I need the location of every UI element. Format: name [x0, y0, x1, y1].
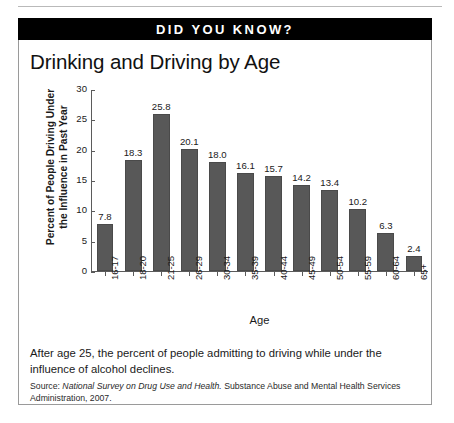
bar-value-label: 20.1: [180, 136, 199, 147]
x-tick-label: 60-64: [390, 256, 401, 280]
x-tick-mark: [302, 272, 303, 276]
x-tick-label: 55-59: [362, 256, 373, 280]
top-rule: [18, 6, 442, 7]
y-tick-label: 25: [76, 113, 87, 124]
x-tick-mark: [217, 272, 218, 276]
x-tick-mark: [245, 272, 246, 276]
bar-group[interactable]: 20.1: [181, 91, 198, 271]
bar-group[interactable]: 15.7: [265, 91, 282, 271]
y-tick-mark: [91, 242, 95, 243]
bar[interactable]: [181, 149, 198, 271]
bar-value-label: 14.2: [292, 172, 311, 183]
chart-title: Drinking and Driving by Age: [30, 50, 280, 74]
bar[interactable]: [209, 162, 226, 271]
y-tick-label: 5: [82, 235, 87, 246]
x-tick-label: 40-44: [278, 256, 289, 280]
x-tick-label: 50-54: [334, 256, 345, 280]
x-tick-mark: [330, 272, 331, 276]
x-tick-label: 18-20: [137, 256, 148, 280]
x-tick-mark: [133, 272, 134, 276]
bar-value-label: 25.8: [152, 101, 171, 112]
y-axis-title-line2: the Influence in Past Year: [58, 105, 69, 228]
y-tick-label: 30: [76, 83, 87, 94]
bar-chart: Percent of People Driving Under the Infl…: [28, 84, 428, 334]
bar-group[interactable]: 2.4: [406, 91, 423, 271]
x-tick-label: 35-39: [249, 256, 260, 280]
source-prefix: Source:: [30, 381, 62, 391]
y-tick-mark: [91, 272, 95, 273]
bar-group[interactable]: 16.1: [237, 91, 254, 271]
x-tick-label: 45-49: [306, 256, 317, 280]
y-tick-mark: [91, 181, 95, 182]
y-axis-title: Percent of People Driving Under the Infl…: [44, 74, 70, 260]
banner-title: DID YOU KNOW?: [156, 23, 294, 36]
x-tick-label: 30-34: [221, 256, 232, 280]
x-tick-mark: [386, 272, 387, 276]
y-tick-label: 20: [76, 144, 87, 155]
source-publication: National Survey on Drug Use and Health.: [62, 381, 221, 391]
bar-value-label: 10.2: [348, 196, 367, 207]
bar-value-label: 2.4: [407, 243, 420, 254]
did-you-know-banner: DID YOU KNOW?: [18, 18, 432, 40]
bar-group[interactable]: 7.8: [97, 91, 114, 271]
caption-text: After age 25, the percent of people admi…: [30, 345, 420, 377]
y-axis-title-line1: Percent of People Driving Under: [45, 89, 56, 245]
bar-group[interactable]: 10.2: [349, 91, 366, 271]
bar-group[interactable]: 18.3: [125, 91, 142, 271]
y-tick-label: 10: [76, 204, 87, 215]
y-tick-mark: [91, 151, 95, 152]
x-tick-mark: [358, 272, 359, 276]
bar-value-label: 6.3: [379, 220, 392, 231]
x-tick-label: 65+: [418, 264, 429, 280]
bar-group[interactable]: 25.8: [153, 91, 170, 271]
x-tick-mark: [414, 272, 415, 276]
bar-value-label: 15.7: [264, 163, 283, 174]
bar-group[interactable]: 14.2: [293, 91, 310, 271]
x-tick-label: 16-17: [109, 256, 120, 280]
x-tick-label: 26-29: [193, 256, 204, 280]
bar-value-label: 16.1: [236, 160, 255, 171]
bar-value-label: 7.8: [98, 211, 111, 222]
bar-group[interactable]: 13.4: [321, 91, 338, 271]
x-axis-title: Age: [91, 314, 428, 326]
bar-group[interactable]: 6.3: [377, 91, 394, 271]
y-tick-label: 15: [76, 174, 87, 185]
x-tick-mark: [105, 272, 106, 276]
y-tick-mark: [91, 90, 95, 91]
x-tick-label: 21-25: [165, 256, 176, 280]
x-tick-mark: [274, 272, 275, 276]
bar-group[interactable]: 18.0: [209, 91, 226, 271]
x-tick-mark: [161, 272, 162, 276]
bar-value-label: 18.0: [208, 149, 227, 160]
bar[interactable]: [153, 114, 170, 271]
y-tick-label: 0: [82, 265, 87, 276]
y-tick-mark: [91, 120, 95, 121]
bar[interactable]: [125, 160, 142, 271]
y-tick-mark: [91, 211, 95, 212]
x-tick-mark: [189, 272, 190, 276]
bar-value-label: 18.3: [124, 147, 143, 158]
plot-area: 051015202530 7.818.325.820.118.016.115.7…: [91, 90, 428, 272]
source-text: Source: National Survey on Drug Use and …: [30, 381, 422, 404]
bar-value-label: 13.4: [320, 177, 339, 188]
